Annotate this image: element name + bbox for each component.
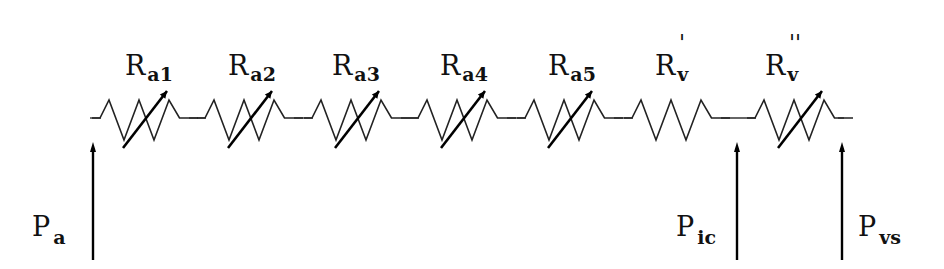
resistor-label: Rv bbox=[655, 50, 689, 85]
variable-arrow-icon bbox=[778, 91, 822, 148]
up-arrow-icon bbox=[90, 142, 96, 152]
resistor-label: Ra3 bbox=[332, 50, 380, 85]
resistor-label: Ra1 bbox=[125, 50, 173, 85]
prime-mark: '' bbox=[789, 30, 801, 55]
pressure-vs: Pvs bbox=[839, 142, 901, 260]
variable-arrow-icon bbox=[123, 91, 167, 148]
pressure-a: Pa bbox=[32, 142, 96, 260]
pressure-label: Pvs bbox=[858, 211, 901, 248]
resistor-a5 bbox=[517, 91, 623, 148]
resistor-a3 bbox=[304, 91, 410, 148]
variable-arrow-icon bbox=[335, 91, 379, 148]
prime-mark: ' bbox=[679, 30, 685, 55]
resistor-zigzag bbox=[624, 100, 730, 140]
variable-arrow-icon bbox=[548, 91, 592, 148]
resistor-label: Ra5 bbox=[548, 50, 596, 85]
pressure-label: Pic bbox=[676, 211, 716, 248]
variable-arrow-icon bbox=[228, 91, 272, 148]
pressure-label: Pa bbox=[32, 211, 65, 248]
variable-arrow-icon bbox=[441, 91, 485, 148]
resistor-label: Rv bbox=[765, 50, 799, 85]
up-arrow-icon bbox=[839, 142, 845, 152]
resistor-v-prime1 bbox=[624, 100, 730, 140]
resistor-label: Ra2 bbox=[228, 50, 276, 85]
pressure-ic: Pic bbox=[676, 142, 740, 260]
resistor-v-prime2 bbox=[747, 91, 853, 148]
resistor-a2 bbox=[197, 91, 303, 148]
up-arrow-icon bbox=[734, 142, 740, 152]
resistor-chain-diagram: Ra1Ra2Ra3Ra4Ra5Rv'Rv'' PaPicPvs bbox=[0, 0, 944, 269]
resistor-a4 bbox=[410, 91, 516, 148]
resistor-label: Ra4 bbox=[440, 50, 488, 85]
resistor-a1 bbox=[92, 91, 198, 148]
